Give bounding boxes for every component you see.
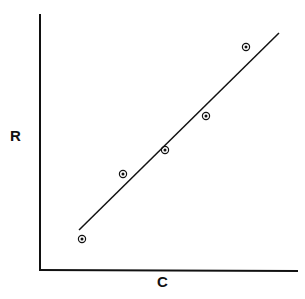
data-point-4 xyxy=(202,112,209,119)
trend-line xyxy=(79,33,279,230)
y-axis-label: R xyxy=(10,127,21,144)
data-point-3 xyxy=(161,146,168,153)
x-axis-label: C xyxy=(157,273,168,290)
x-axis xyxy=(39,270,298,271)
data-point-2 xyxy=(119,170,126,177)
data-point-5 xyxy=(242,43,249,50)
data-point-1 xyxy=(78,235,85,242)
data-points xyxy=(78,43,249,242)
scatter-plot xyxy=(0,0,305,299)
